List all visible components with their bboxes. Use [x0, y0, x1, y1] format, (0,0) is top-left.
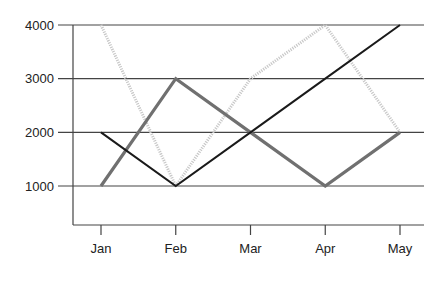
y-tick-label: 1000 [25, 179, 54, 194]
x-tick-label: May [388, 241, 413, 256]
x-tick-label: Feb [165, 241, 187, 256]
y-tick-label: 3000 [25, 71, 54, 86]
y-tick-label: 2000 [25, 125, 54, 140]
series-line-1 [101, 25, 400, 186]
y-tick-label: 4000 [25, 18, 54, 33]
x-tick-label: Jan [91, 241, 112, 256]
axes [73, 25, 424, 225]
y-axis-ticks: 1000200030004000 [25, 18, 54, 194]
x-tick-label: Apr [315, 241, 336, 256]
x-tick-label: Mar [239, 241, 262, 256]
line-chart: 1000200030004000 JanFebMarAprMay [0, 0, 446, 287]
x-axis-ticks: JanFebMarAprMay [91, 225, 413, 256]
series-line-3 [101, 25, 400, 186]
series-lines [101, 25, 400, 186]
